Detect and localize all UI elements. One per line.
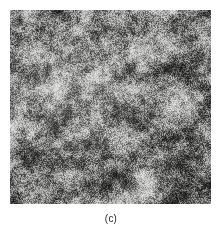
micrograph-panel bbox=[10, 10, 211, 204]
micrograph-image bbox=[10, 10, 211, 204]
figure-container: (c) bbox=[0, 0, 222, 235]
figure-caption: (c) bbox=[0, 212, 222, 225]
